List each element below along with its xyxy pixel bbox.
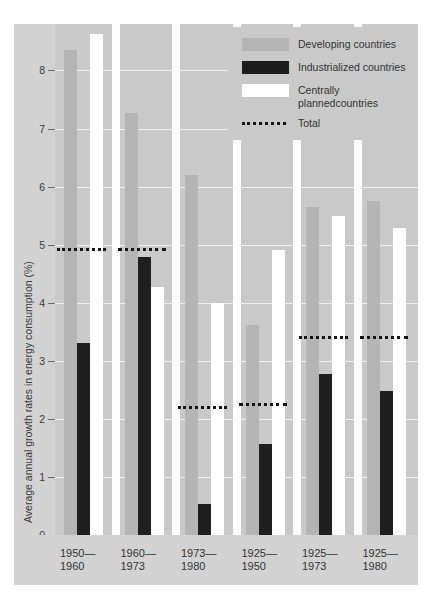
- bar-ind: [380, 391, 393, 535]
- bar-ind: [77, 343, 90, 535]
- bar-dev: [64, 50, 77, 535]
- y-tick-label: 8: [23, 64, 45, 76]
- bar-cen: [151, 287, 164, 535]
- x-axis-label-line1: 1950—: [60, 547, 95, 560]
- total-dotted-line: [299, 336, 348, 339]
- x-axis-label-line2: 1950: [242, 560, 277, 573]
- legend-item-industrialized: Industrialized countries: [242, 61, 405, 74]
- energy-growth-bar-chart: Average annual growth rates in energy co…: [0, 0, 435, 592]
- x-axis-label: 1925—1980: [363, 547, 398, 573]
- bar-dev: [246, 325, 259, 535]
- y-tick-mark: [48, 129, 55, 130]
- total-dotted-line: [178, 406, 227, 409]
- centrally-planned-swatch-icon: [242, 84, 289, 97]
- y-tick-mark: [48, 303, 55, 304]
- y-tick-label: 2: [23, 413, 45, 425]
- y-tick-mark: [48, 419, 55, 420]
- y-tick-label: 7: [23, 123, 45, 135]
- x-axis-label-line1: 1925—: [363, 547, 398, 560]
- bar-dev: [185, 175, 198, 535]
- industrialized-swatch-icon: [242, 61, 289, 74]
- x-axis-label-line1: 1925—: [242, 547, 277, 560]
- y-tick-mark: [48, 245, 55, 246]
- x-axis-label-line2: 1973: [302, 560, 337, 573]
- y-tick-label: 3: [23, 355, 45, 367]
- bar-cen: [90, 34, 103, 535]
- total-dotted-line: [360, 336, 409, 339]
- y-tick-mark: [48, 361, 55, 362]
- total-dotted-line-icon: [242, 117, 289, 130]
- bar-dev: [367, 201, 380, 535]
- total-dotted-line: [118, 248, 167, 251]
- bar-dev: [306, 207, 319, 535]
- group-separator: [172, 24, 180, 535]
- chart-legend: Developing countries Industrialized coun…: [228, 27, 418, 140]
- x-axis-label: 1950—1960: [60, 547, 95, 573]
- x-axis-label-line1: 1925—: [302, 547, 337, 560]
- bar-ind: [259, 444, 272, 535]
- total-dotted-line: [239, 403, 288, 406]
- legend-label-centrally-planned: Centrally plannedcountries: [298, 84, 418, 109]
- legend-label-industrialized: Industrialized countries: [298, 61, 405, 74]
- legend-label-total: Total: [298, 117, 320, 130]
- legend-label-cp-line2: countries: [335, 97, 378, 109]
- x-axis-label-line1: 1960—: [121, 547, 156, 560]
- bar-cen: [393, 228, 406, 535]
- y-tick-label: 4: [23, 297, 45, 309]
- developing-swatch-icon: [242, 38, 289, 51]
- legend-item-total: Total: [242, 117, 320, 130]
- y-tick-mark: [48, 477, 55, 478]
- x-axis-band: 1950—19601960—19731973—19801925—19501925…: [14, 535, 418, 585]
- bar-ind: [319, 374, 332, 535]
- legend-item-centrally-planned: Centrally plannedcountries: [242, 84, 418, 109]
- x-axis-label-line1: 1973—: [181, 547, 216, 560]
- x-axis-label-line2: 1980: [181, 560, 216, 573]
- bar-cen: [211, 303, 224, 535]
- y-tick-mark: [48, 187, 55, 188]
- x-axis-label: 1973—1980: [181, 547, 216, 573]
- y-tick-label: 6: [23, 181, 45, 193]
- x-axis-label-line2: 1960: [60, 560, 95, 573]
- bar-cen: [272, 250, 285, 535]
- bar-ind: [198, 504, 211, 535]
- total-dotted-line: [57, 248, 106, 251]
- x-axis-label-line2: 1980: [363, 560, 398, 573]
- y-tick-mark: [48, 70, 55, 71]
- y-tick-label: 5: [23, 239, 45, 251]
- bar-dev: [125, 113, 138, 535]
- x-axis-label: 1925—1973: [302, 547, 337, 573]
- group-separator: [112, 24, 120, 535]
- bar-cen: [332, 216, 345, 535]
- x-axis-label: 1960—1973: [121, 547, 156, 573]
- x-axis-label-line2: 1973: [121, 560, 156, 573]
- bar-ind: [138, 257, 151, 535]
- y-tick-label: 1: [23, 471, 45, 483]
- x-axis-label: 1925—1950: [242, 547, 277, 573]
- legend-label-developing: Developing countries: [298, 38, 396, 51]
- legend-item-developing: Developing countries: [242, 38, 396, 51]
- legend-label-cp-line1: Centrally planned: [298, 84, 339, 109]
